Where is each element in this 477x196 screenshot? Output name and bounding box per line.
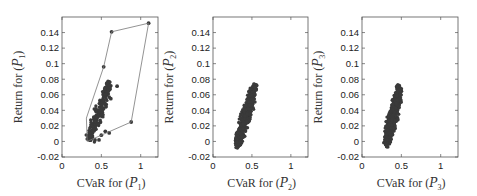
y-tick-label: 0	[205, 136, 210, 147]
x-axis-label: CVaR for (P2)	[227, 176, 296, 192]
y-tick-label: 0.14	[192, 27, 211, 38]
data-point	[398, 88, 401, 91]
x-tick-label: 0.5	[245, 160, 258, 171]
x-tick-label: 0.5	[95, 160, 108, 171]
data-point	[385, 125, 388, 128]
y-tick-label: 0.1	[46, 58, 59, 69]
x-tick-label: 0	[59, 160, 64, 171]
y-tick-label: 0.14	[341, 27, 360, 38]
y-tick-label: 0.04	[192, 105, 211, 116]
panel-3: -0.0200.020.040.060.080.10.120.1400.51CV…	[311, 17, 458, 192]
data-point	[394, 107, 397, 110]
scatter-points	[382, 83, 403, 149]
data-point	[89, 121, 92, 124]
x-tick-label: 0	[359, 160, 364, 171]
y-tick-label: 0.08	[192, 74, 211, 85]
y-tick-label: 0.02	[41, 120, 60, 131]
y-tick-label: 0	[54, 136, 59, 147]
data-point	[94, 120, 97, 123]
y-tick-label: 0.08	[41, 74, 60, 85]
x-tick-label: 1	[288, 160, 293, 171]
y-tick-label: 0.02	[192, 120, 211, 131]
data-point	[103, 87, 106, 90]
data-point	[105, 81, 109, 85]
data-point	[235, 135, 238, 138]
data-point	[99, 118, 102, 121]
data-point	[234, 146, 237, 149]
data-point	[241, 127, 244, 130]
data-point	[252, 82, 255, 85]
data-point	[235, 141, 238, 144]
data-point	[241, 122, 244, 125]
data-point	[396, 118, 399, 121]
figure: -0.0200.020.040.060.080.10.120.1400.51CV…	[0, 0, 477, 196]
data-point	[387, 114, 390, 117]
data-point	[95, 110, 98, 113]
y-axis-label: Return for (P1)	[11, 51, 27, 124]
y-tick-label: 0.12	[341, 42, 360, 53]
y-tick-label: 0.02	[341, 120, 360, 131]
x-tick-label: 0.5	[395, 160, 408, 171]
data-point	[249, 88, 252, 91]
y-tick-label: 0.14	[41, 27, 60, 38]
data-point	[108, 80, 111, 83]
data-point	[246, 113, 249, 116]
data-point	[254, 88, 257, 91]
data-point	[98, 102, 101, 105]
data-point	[396, 85, 399, 88]
x-axis-label: CVaR for (P1)	[77, 176, 146, 192]
x-axis-label: CVaR for (P3)	[377, 176, 446, 192]
data-point	[248, 104, 251, 107]
data-point	[247, 107, 250, 110]
data-point	[384, 133, 387, 136]
y-tick-label: 0.1	[346, 58, 359, 69]
y-tick-label: 0.12	[41, 42, 60, 53]
data-point	[97, 123, 100, 126]
y-tick-label: 0.1	[197, 58, 210, 69]
data-point	[399, 93, 402, 96]
data-point	[391, 103, 394, 106]
data-point	[397, 113, 400, 116]
data-point	[386, 138, 389, 141]
y-tick-label: 0	[354, 136, 359, 147]
panel-1: -0.0200.020.040.060.080.10.120.1400.51CV…	[11, 17, 158, 192]
data-point	[107, 90, 110, 93]
data-point	[385, 143, 388, 146]
y-tick-label: 0.04	[41, 105, 60, 116]
data-point	[93, 107, 96, 110]
y-axis-label: Return for (P2)	[162, 51, 178, 124]
y-tick-label: 0.12	[192, 42, 211, 53]
data-point	[109, 97, 113, 101]
data-point	[105, 99, 108, 102]
data-point	[103, 102, 106, 105]
y-axis-label: Return for (P3)	[311, 51, 327, 124]
scatter-panels: -0.0200.020.040.060.080.10.120.1400.51CV…	[0, 0, 477, 196]
data-point	[395, 99, 398, 102]
data-point	[99, 108, 102, 111]
x-tick-label: 0	[210, 160, 215, 171]
data-point	[248, 118, 251, 121]
data-point	[241, 118, 244, 121]
data-point	[387, 119, 390, 122]
x-tick-label: 1	[438, 160, 443, 171]
data-point	[92, 128, 95, 131]
data-point	[253, 92, 256, 95]
y-tick-label: -0.02	[37, 151, 59, 162]
data-point	[390, 118, 393, 121]
axes-frame	[362, 17, 458, 157]
data-point	[392, 127, 395, 130]
data-point	[97, 138, 101, 142]
data-point	[89, 135, 92, 138]
y-tick-label: 0.04	[341, 105, 360, 116]
data-point	[101, 90, 104, 93]
data-point	[239, 132, 242, 135]
data-point	[253, 85, 256, 88]
y-tick-label: -0.02	[337, 151, 359, 162]
data-point	[101, 113, 104, 116]
scatter-points	[85, 21, 151, 143]
y-tick-label: -0.02	[188, 151, 210, 162]
y-tick-label: 0.06	[41, 89, 60, 100]
data-point	[95, 116, 98, 119]
axes-frame	[213, 17, 308, 157]
y-tick-label: 0.06	[192, 89, 211, 100]
